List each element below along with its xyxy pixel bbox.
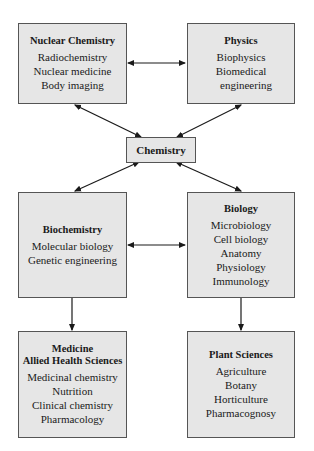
node-item: Nutrition (52, 384, 92, 398)
arrow-chemistry-physics (177, 105, 241, 137)
node-title-line: Allied Health Sciences (23, 355, 123, 367)
node-item: Biomedical (216, 64, 267, 78)
node-item: Radiochemistry (38, 50, 108, 64)
arrow-chemistry-biochem (75, 162, 139, 191)
node-item: engineering (210, 78, 272, 92)
arrow-chemistry-nuclear (75, 105, 141, 137)
node-item: Biophysics (217, 50, 266, 64)
node-item: Molecular biology (32, 239, 114, 253)
node-item: Clinical chemistry (32, 398, 113, 412)
node-item: Body imaging (41, 78, 104, 92)
node-medicine: Medicine Allied Health Sciences Medicina… (18, 331, 127, 438)
node-item: Medicinal chemistry (27, 370, 118, 384)
node-item: Immunology (213, 274, 270, 288)
node-item: Pharmacognosy (206, 406, 276, 420)
node-plant-sciences: Plant Sciences Agriculture Botany Hortic… (187, 331, 295, 438)
node-item: Nuclear medicine (34, 64, 112, 78)
node-item: Pharmacology (41, 412, 105, 426)
node-title: Biochemistry (43, 224, 103, 236)
node-title: Nuclear Chemistry (30, 35, 115, 47)
node-chemistry: Chemistry (126, 137, 196, 163)
node-biochemistry: Biochemistry Molecular biology Genetic e… (18, 192, 127, 298)
node-title: Plant Sciences (209, 349, 273, 361)
node-title-line: Medicine (23, 343, 123, 355)
node-item: Agriculture (216, 364, 267, 378)
node-nuclear-chemistry: Nuclear Chemistry Radiochemistry Nuclear… (18, 23, 127, 104)
node-title: Physics (224, 35, 257, 47)
node-title: Medicine Allied Health Sciences (23, 343, 123, 367)
node-item: Botany (225, 378, 257, 392)
node-item: Horticulture (214, 392, 268, 406)
node-item: Anatomy (221, 246, 262, 260)
node-biology: Biology Microbiology Cell biology Anatom… (187, 192, 295, 298)
node-item: Cell biology (214, 232, 269, 246)
node-item: Physiology (216, 260, 266, 274)
node-physics: Physics Biophysics Biomedical engineerin… (187, 23, 295, 104)
node-item: Microbiology (211, 218, 272, 232)
arrow-chemistry-biology (176, 162, 241, 191)
node-title: Biology (224, 203, 258, 215)
node-title: Chemistry (136, 144, 186, 156)
node-item: Genetic engineering (28, 253, 117, 267)
